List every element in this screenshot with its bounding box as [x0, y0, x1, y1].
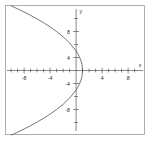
parabola-plot: -8 -4 4 8 x 8 4 -4 -8 y: [0, 0, 151, 146]
y-axis-label: y: [80, 8, 83, 14]
y-tick-label-pos4: 4: [67, 55, 70, 61]
y-tick-label-neg8: -8: [65, 107, 70, 113]
x-tick-label-neg8: -8: [22, 75, 27, 81]
x-axis-group: -8 -4 4 8 x: [7, 62, 143, 81]
plot-frame: [6, 6, 145, 135]
x-tick-label-pos4: 4: [101, 75, 104, 81]
chart-figure: -8 -4 4 8 x 8 4 -4 -8 y: [0, 0, 151, 146]
y-tick-label-pos8: 8: [67, 29, 70, 35]
x-tick-label-pos8: 8: [127, 75, 130, 81]
y-tick-label-neg4: -4: [65, 81, 70, 87]
y-axis-group: 8 4 -4 -8 y: [65, 8, 82, 131]
x-tick-label-neg4: -4: [48, 75, 53, 81]
x-axis-label: x: [139, 62, 142, 68]
